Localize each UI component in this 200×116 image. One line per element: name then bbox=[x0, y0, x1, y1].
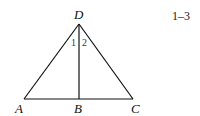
label-b: B bbox=[74, 101, 82, 116]
angle-2-label: 2 bbox=[82, 37, 87, 48]
segment-da bbox=[24, 24, 79, 99]
segment-dc bbox=[79, 24, 133, 99]
geometry-diagram: D A B C 1 2 1–3 bbox=[0, 0, 200, 116]
label-a: A bbox=[14, 101, 23, 116]
figure-number: 1–3 bbox=[172, 9, 190, 23]
angle-1-label: 1 bbox=[71, 37, 76, 48]
label-d: D bbox=[73, 7, 84, 22]
label-c: C bbox=[131, 101, 140, 116]
